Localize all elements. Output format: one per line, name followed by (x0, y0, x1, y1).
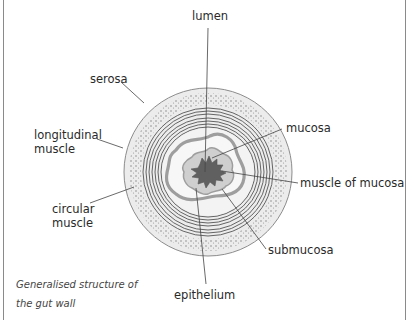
label-circular-line2: muscle (52, 216, 95, 230)
label-circular-muscle: circular muscle (52, 202, 95, 230)
caption-line-1: Generalised structure of (16, 275, 138, 294)
caption-line-2: the gut wall (16, 294, 138, 313)
figure-caption: Generalised structure of the gut wall (16, 275, 138, 313)
label-muscle-of-mucosa: muscle of mucosa (300, 176, 404, 190)
label-longitudinal-muscle: longitudinal muscle (34, 128, 102, 156)
label-longitudinal-line2: muscle (34, 142, 102, 156)
label-lumen: lumen (192, 9, 228, 23)
label-longitudinal-line1: longitudinal (34, 128, 102, 142)
label-epithelium: epithelium (174, 288, 235, 302)
label-circular-line1: circular (52, 202, 95, 216)
label-serosa: serosa (90, 72, 128, 86)
label-mucosa: mucosa (286, 121, 331, 135)
label-submucosa: submucosa (268, 243, 333, 257)
